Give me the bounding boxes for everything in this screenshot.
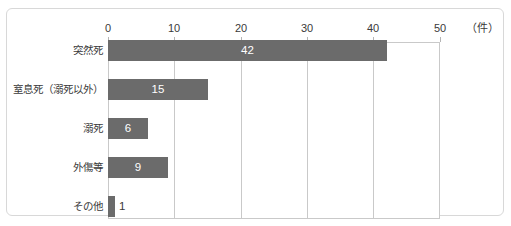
bar-row-1: 窒息死（溺死以外） 15 (7, 79, 511, 100)
bar-row-3: 外傷等 9 (7, 157, 511, 178)
bar-4[interactable] (108, 196, 115, 217)
chart-frame: 0 10 20 30 40 50 （件） 突然死 42 窒息死（溺死以外） 15… (6, 8, 504, 216)
x-tick-label-40: 40 (367, 21, 379, 35)
bar-0[interactable] (108, 40, 387, 61)
bar-value-4: 1 (119, 196, 125, 217)
category-label-3: 外傷等 (73, 160, 103, 175)
bar-row-2: 溺死 6 (7, 118, 511, 139)
bar-3[interactable] (108, 157, 168, 178)
category-label-1: 窒息死（溺死以外） (13, 82, 103, 97)
bar-row-4: その他 1 (7, 196, 511, 217)
category-label-4: その他 (73, 199, 103, 214)
bar-row-0: 突然死 42 (7, 40, 511, 61)
x-tick-label-20: 20 (235, 21, 247, 35)
x-axis: 0 10 20 30 40 50 （件） (7, 21, 511, 41)
x-tick-label-10: 10 (168, 21, 180, 35)
x-tick-label-0: 0 (105, 21, 111, 35)
category-label-0: 突然死 (73, 43, 103, 58)
bar-1[interactable] (108, 79, 208, 100)
unit-label: （件） (466, 21, 499, 35)
category-label-2: 溺死 (83, 121, 103, 136)
x-tick-label-50: 50 (434, 21, 446, 35)
bar-2[interactable] (108, 118, 148, 139)
x-tick-label-30: 30 (301, 21, 313, 35)
